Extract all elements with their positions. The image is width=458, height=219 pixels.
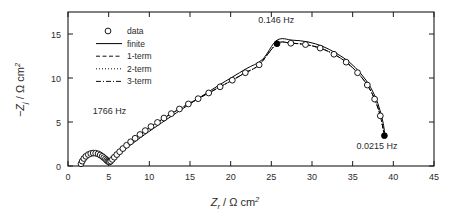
data-point xyxy=(137,132,143,138)
data-point xyxy=(161,115,167,121)
x-tick-label: 25 xyxy=(266,172,276,182)
data-point xyxy=(242,70,248,76)
data-series-markers xyxy=(78,40,387,166)
legend-label-finite: finite xyxy=(127,39,145,49)
legend: datafinite1-term2-term3-term xyxy=(96,26,152,86)
data-point xyxy=(377,113,383,119)
data-point xyxy=(372,96,378,102)
x-tick-label: 35 xyxy=(348,172,358,182)
x-tick-label: 15 xyxy=(185,172,195,182)
x-tick-label: 40 xyxy=(388,172,398,182)
data-point xyxy=(355,70,361,76)
x-tick-label: 45 xyxy=(429,172,439,182)
x-tick-label: 0 xyxy=(65,172,70,182)
data-point-highlighted xyxy=(274,41,280,47)
y-tick-label: 5 xyxy=(56,118,61,128)
data-point xyxy=(288,40,294,46)
data-point xyxy=(331,51,337,57)
data-point xyxy=(148,124,154,130)
nyquist-impedance-plot: 051015202530354045 051015 1766 Hz0.146 H… xyxy=(0,0,458,219)
data-point xyxy=(142,128,148,134)
peak-frequency-label: 0.146 Hz xyxy=(258,15,295,25)
data-point xyxy=(217,84,223,90)
x-tick-label: 20 xyxy=(226,172,236,182)
data-point xyxy=(303,42,309,48)
low-frequency-label: 0.0215 Hz xyxy=(357,141,399,151)
data-point xyxy=(343,59,349,65)
data-point xyxy=(229,77,235,83)
data-point xyxy=(206,90,212,96)
legend-label-1-term: 1-term xyxy=(127,51,152,61)
data-point xyxy=(256,62,262,68)
data-point xyxy=(168,111,174,117)
legend-label-2-term: 2-term xyxy=(127,64,152,74)
y-tick-label: 15 xyxy=(51,30,61,40)
legend-label-3-term: 3-term xyxy=(127,76,152,86)
data-point xyxy=(185,101,191,107)
x-tick-label: 30 xyxy=(307,172,317,182)
x-axis-title: Zr / Ω cm2 xyxy=(210,195,260,211)
data-point xyxy=(364,82,370,88)
y-tick-label: 10 xyxy=(51,74,61,84)
data-point xyxy=(195,96,201,102)
legend-label-data: data xyxy=(127,26,144,36)
x-tick-label: 5 xyxy=(106,172,111,182)
legend-marker-data xyxy=(105,28,111,34)
data-point xyxy=(317,45,323,51)
y-axis-title: −Zj / Ω cm2 xyxy=(13,62,29,117)
data-point xyxy=(155,120,161,126)
x-tick-label: 10 xyxy=(144,172,154,182)
x-axis-ticks: 051015202530354045 xyxy=(65,12,439,182)
high-frequency-label: 1766 Hz xyxy=(93,106,127,116)
y-tick-label: 0 xyxy=(56,162,61,172)
figure-container: 051015202530354045 051015 1766 Hz0.146 H… xyxy=(0,0,458,219)
data-point-highlighted xyxy=(381,133,387,139)
data-point xyxy=(177,106,183,112)
